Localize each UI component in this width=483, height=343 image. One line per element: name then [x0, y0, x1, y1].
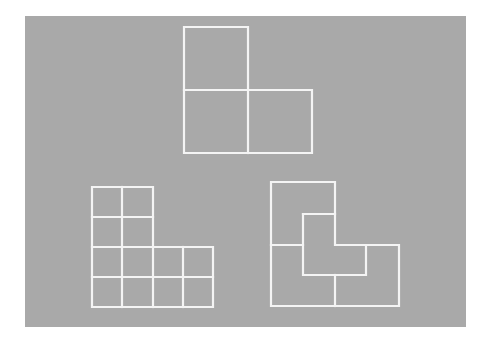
diagram-canvas	[0, 0, 483, 343]
diagram-svg	[0, 0, 483, 343]
